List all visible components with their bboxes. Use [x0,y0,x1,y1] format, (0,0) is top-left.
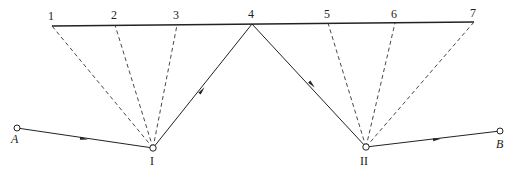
diagram-lines [0,0,512,175]
traverse-path [17,24,500,148]
label-point-6: 6 [391,8,397,20]
point-A-marker [14,125,20,131]
label-point-B: B [496,138,503,150]
label-point-4: 4 [248,8,254,20]
label-point-7: 7 [470,7,476,19]
station-I-marker [150,145,156,151]
sight-lines-station-II [328,22,474,147]
label-point-5: 5 [324,8,330,20]
label-point-A: A [11,133,18,145]
label-station-I: I [150,155,154,167]
direction-arrows [80,81,441,142]
sight-lines-station-I [52,25,177,148]
station-II-marker [363,144,369,150]
label-point-3: 3 [173,9,179,21]
label-point-2: 2 [111,9,117,21]
survey-diagram: 1 2 3 4 5 6 7 A I II B [0,0,512,175]
label-station-II: II [360,155,368,167]
label-point-1: 1 [48,10,54,22]
point-B-marker [497,128,503,134]
